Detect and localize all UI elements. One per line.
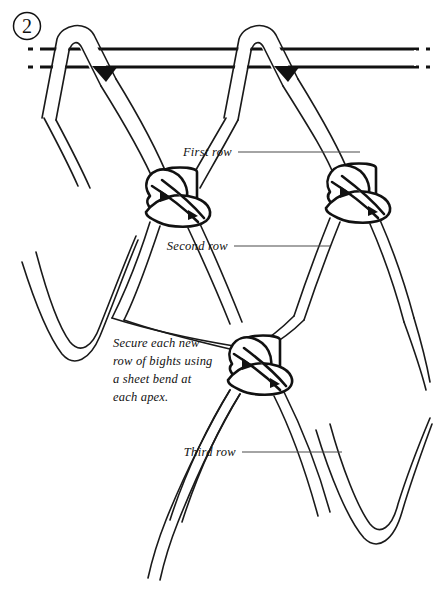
step-number-label: 2 [22, 15, 32, 37]
hitch-right-tail-b [283, 86, 336, 180]
caption-line-2: row of bights using [113, 354, 213, 368]
knot1-tail-left-b [124, 226, 160, 320]
strand-lower-left-b [160, 394, 240, 580]
callout-first-row-label: First row [182, 145, 232, 159]
step-number-badge: 2 [14, 13, 41, 40]
diagram-canvas: First row Second row Third row Secure ea… [0, 0, 433, 595]
caption-line-1: Secure each new [113, 336, 200, 350]
callout-second-row-label: Second row [167, 239, 229, 253]
strand-lower-left-a [148, 390, 230, 578]
instruction-caption: Secure each new row of bights using a sh… [113, 336, 213, 404]
callout-first-row: First row [182, 145, 360, 159]
bight-left-inner [36, 236, 136, 348]
caption-line-3: a sheet bend at [113, 372, 192, 386]
caption-line-4: each apex. [113, 390, 168, 404]
strand-right-edge [404, 318, 430, 390]
knot-row1-right [294, 164, 414, 323]
callout-second-row: Second row [167, 239, 330, 253]
strand-left-descend [44, 118, 90, 188]
hitch-left-tail-a [116, 79, 170, 182]
strand-right-edge-b [404, 322, 426, 390]
bight-right-lower [316, 418, 432, 544]
callout-third-row-label: Third row [184, 445, 237, 459]
knot2-tail-right-a [380, 220, 414, 318]
knot2-tail-left-a [294, 218, 330, 316]
callout-third-row: Third row [184, 445, 342, 459]
bight-right-lower-outer [316, 424, 432, 544]
strand-left-descend-b [56, 120, 90, 188]
strand-lower-left [148, 390, 240, 580]
strand-right-edge-a [414, 318, 430, 382]
netting-diagram-figure: First row Second row Third row Secure ea… [0, 0, 433, 595]
hitch-right-tail-a [298, 79, 350, 176]
